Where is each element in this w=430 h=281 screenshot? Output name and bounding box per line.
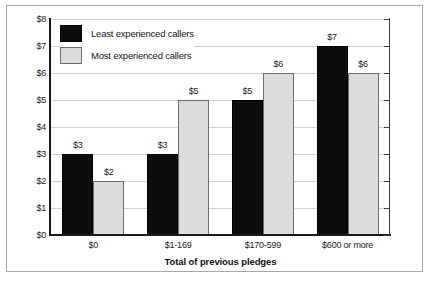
y-axis-tick-label: $0 xyxy=(18,231,46,240)
right-axis-tick xyxy=(384,235,390,236)
y-axis-tick-label: $2 xyxy=(18,177,46,186)
y-axis-tick-label: $3 xyxy=(18,150,46,159)
bar xyxy=(232,100,263,235)
y-axis-tick-label: $7 xyxy=(18,42,46,51)
right-axis-tick xyxy=(384,46,390,47)
bar xyxy=(348,73,379,235)
bar-value-label: $5 xyxy=(232,87,263,96)
right-axis-tick xyxy=(384,208,390,209)
bar-value-label: $6 xyxy=(348,60,379,69)
x-axis-title: Total of previous pledges xyxy=(51,256,390,267)
x-axis-category-label: $0 xyxy=(51,240,136,250)
black-square-icon xyxy=(60,25,82,42)
right-axis-tick xyxy=(384,100,390,101)
bar-value-label: $3 xyxy=(147,141,178,150)
bar xyxy=(62,154,93,235)
bar xyxy=(147,154,178,235)
bar-value-label: $5 xyxy=(178,87,209,96)
bar-value-label: $2 xyxy=(93,168,124,177)
y-axis-tick-labels: $0$1$2$3$4$5$6$7$8 xyxy=(14,0,46,281)
chart-legend: Least experienced callers Most experienc… xyxy=(60,22,194,66)
y-axis-tick-label: $8 xyxy=(18,15,46,24)
y-axis-tick-label: $6 xyxy=(18,69,46,78)
bar-chart-figure: $0$1$2$3$4$5$6$7$8 $3$2$3$5$5$6$7$6 $0$1… xyxy=(0,0,430,281)
legend-item-least-experienced: Least experienced callers xyxy=(60,22,194,44)
legend-item-most-experienced: Most experienced callers xyxy=(60,44,194,66)
x-axis-line xyxy=(49,234,391,236)
right-axis-tick xyxy=(384,19,390,20)
bar xyxy=(178,100,209,235)
legend-label: Least experienced callers xyxy=(91,28,194,39)
right-axis-tick xyxy=(384,73,390,74)
y-axis-tick-label: $5 xyxy=(18,96,46,105)
bar-value-label: $6 xyxy=(263,60,294,69)
x-axis-category-label: $170-599 xyxy=(221,240,306,250)
bar-value-label: $7 xyxy=(317,33,348,42)
gray-square-icon xyxy=(60,47,82,64)
y-axis-tick-label: $4 xyxy=(18,123,46,132)
bar xyxy=(317,46,348,235)
bar xyxy=(263,73,294,235)
right-axis-tick xyxy=(384,154,390,155)
x-axis-category-label: $1-169 xyxy=(136,240,221,250)
y-axis-tick-label: $1 xyxy=(18,204,46,213)
gridline xyxy=(51,19,390,20)
x-axis-category-label: $600 or more xyxy=(305,240,390,250)
right-axis-tick xyxy=(384,181,390,182)
bar-value-label: $3 xyxy=(62,141,93,150)
legend-label: Most experienced callers xyxy=(91,50,191,61)
bar xyxy=(93,181,124,235)
right-axis-tick xyxy=(384,127,390,128)
y-axis-line xyxy=(49,18,51,236)
